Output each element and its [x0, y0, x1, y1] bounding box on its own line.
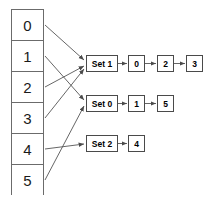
mapping-arrow	[45, 25, 84, 60]
bucket-set-0[interactable]: Set 0	[86, 95, 118, 112]
array-cell-2[interactable]: 2	[12, 72, 43, 103]
chain-node[interactable]: 0	[128, 55, 145, 72]
chain-node[interactable]: 2	[157, 55, 174, 72]
diagram-canvas: 0 1 2 3 4 5 Set 1 0 2 3 Set 0 1 5 Set 2 …	[0, 0, 216, 206]
chain-node[interactable]: 3	[186, 55, 203, 72]
bucket-set-2[interactable]: Set 2	[86, 135, 118, 152]
array-cell-3[interactable]: 3	[12, 103, 43, 134]
array-to-bucket-edges	[45, 25, 84, 180]
bucket-set-1[interactable]: Set 1	[86, 55, 118, 72]
chain-node[interactable]: 4	[128, 135, 145, 152]
array-cell-4[interactable]: 4	[12, 134, 43, 165]
chain-node[interactable]: 5	[157, 95, 174, 112]
mapping-arrow	[45, 144, 84, 149]
mapping-arrow	[45, 106, 84, 180]
array-cell-0[interactable]: 0	[12, 10, 43, 41]
array-cell-5[interactable]: 5	[12, 165, 43, 196]
array-cell-1[interactable]: 1	[12, 41, 43, 72]
index-array: 0 1 2 3 4 5	[11, 9, 44, 195]
chain-node[interactable]: 1	[128, 95, 145, 112]
